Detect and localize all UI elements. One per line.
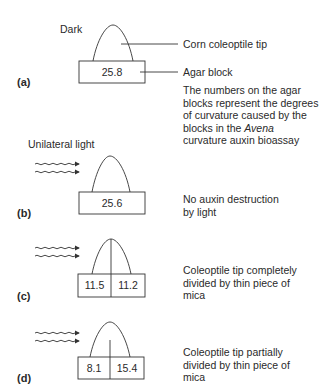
wavy-arrow-icon [35, 255, 79, 257]
agar-block-value-left: 11.5 [78, 279, 111, 291]
description-line: Coleoptile tip partially [183, 346, 290, 359]
agar-block-value: 25.6 [79, 197, 145, 209]
agar-block-value: 25.8 [79, 66, 145, 78]
panel-c-description: Coleoptile tip completely divided by thi… [183, 264, 297, 302]
description-line: The numbers on the agar [183, 84, 318, 97]
coleoptile-tip-shape [92, 156, 130, 192]
agar-block-value-left: 8.1 [78, 362, 110, 374]
description-text: blocks in the [183, 122, 244, 134]
panel-label-c: (c) [17, 290, 30, 302]
agar-block-value-right: 15.4 [110, 362, 144, 374]
panel-d-description: Coleoptile tip partially divided by thin… [183, 346, 290, 384]
wavy-arrow-icon [35, 171, 79, 173]
description-line: divided by thin piece of [183, 359, 290, 372]
panel-label-d: (d) [17, 372, 31, 384]
description-line: mica [183, 371, 290, 384]
auxin-coleoptile-diagram: Dark 25.8 Corn coleoptile tip Agar block… [0, 0, 321, 392]
wavy-arrow-icon [35, 332, 79, 334]
block-callout-label: Agar block [183, 66, 233, 79]
tip-callout-label: Corn coleoptile tip [183, 38, 267, 51]
panel-a-description: The numbers on the agar blocks represent… [183, 84, 318, 147]
coleoptile-tip-shape [92, 239, 131, 274]
wavy-arrow-icon [35, 247, 79, 249]
genus-name: Avena [244, 122, 274, 134]
agar-block-value-right: 11.2 [111, 279, 145, 291]
description-line: of curvature caused by the [183, 109, 318, 122]
panel-label-a: (a) [17, 76, 30, 88]
panel-label-b: (b) [17, 207, 31, 219]
condition-label-unilateral-light: Unilateral light [28, 138, 95, 151]
description-line: curvature auxin bioassay [183, 134, 318, 147]
wavy-arrow-icon [35, 340, 79, 342]
description-line: Coleoptile tip completely [183, 264, 297, 277]
description-line: mica [183, 289, 297, 302]
condition-label-dark: Dark [60, 23, 82, 36]
panel-b-description: No auxin destruction by light [183, 193, 279, 218]
description-line: by light [183, 206, 279, 219]
description-line: No auxin destruction [183, 193, 279, 206]
description-line: divided by thin piece of [183, 277, 297, 290]
description-line: blocks in the Avena [183, 122, 318, 135]
description-line: blocks represent the degrees [183, 97, 318, 110]
wavy-arrow-icon [35, 163, 79, 165]
coleoptile-tip-shape [93, 25, 133, 61]
